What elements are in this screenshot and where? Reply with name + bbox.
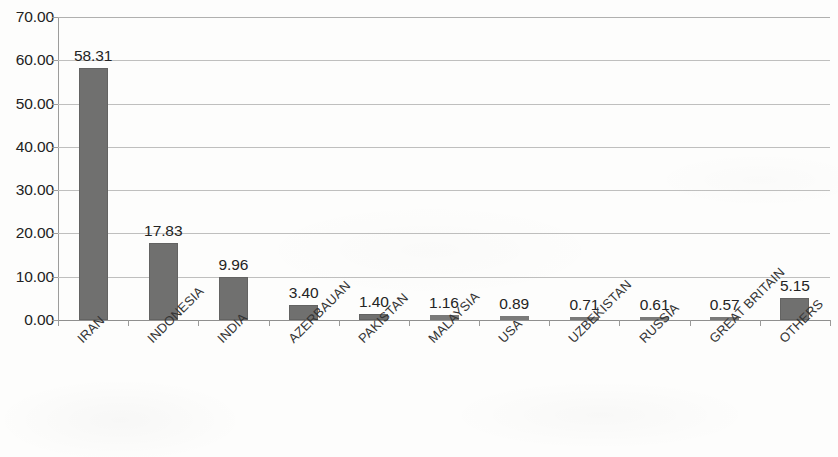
x-axis-label: USA (496, 317, 525, 346)
x-axis-label: AZERBAUAN (286, 279, 353, 346)
x-axis-label: IRAN (75, 313, 107, 345)
x-axis-label: INDONESIA (145, 284, 206, 345)
x-axis-label: INDIA (215, 311, 249, 345)
x-axis-label: PAKISTAN (356, 291, 410, 345)
x-axis-label: RUSSIA (637, 301, 681, 345)
x-axis-label: MALAYSIA (426, 290, 482, 346)
x-axis-label: UZBEKISTAN (566, 278, 634, 346)
x-axis-labels: IRANINDONESIAINDIAAZERBAUANPAKISTANMALAY… (0, 0, 838, 457)
bar-chart: 0.0010.0020.0030.0040.0050.0060.0070.00 … (0, 0, 838, 457)
x-axis-label: GREAT BRITAIN (707, 265, 787, 345)
x-axis-label: OTHERS (777, 297, 825, 345)
